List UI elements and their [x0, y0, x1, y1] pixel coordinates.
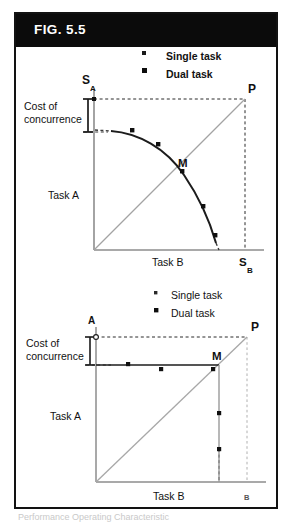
- label-single-task-a-subscript-top: A: [90, 84, 96, 93]
- x-axis-label-top: Task B: [152, 256, 184, 268]
- independence-diagonal-top: [94, 99, 245, 250]
- single-task-marker-a-bottom: [94, 335, 99, 340]
- cost-of-concurrence-line1-bottom: Cost of: [26, 337, 59, 349]
- label-single-task-b-bottom: B: [244, 493, 250, 502]
- label-single-task-b-subscript-top: B: [247, 266, 253, 275]
- poc-curve-top: [111, 131, 216, 243]
- data-point: [201, 204, 205, 208]
- legend-label-single-task: Single task: [171, 289, 223, 301]
- poc-curve-extension-right-top: [216, 243, 219, 250]
- data-point: [159, 367, 163, 371]
- cost-of-concurrence-line1-top: Cost of: [24, 100, 57, 112]
- legend-marker-single-task-icon: [142, 51, 146, 55]
- chart-top-panel: Single task Dual task: [16, 47, 276, 279]
- legend-marker-single-task-icon: [154, 291, 157, 294]
- cost-of-concurrence-line2-bottom: concurrence: [26, 350, 84, 362]
- label-perfect-point-top: P: [248, 82, 256, 96]
- data-point: [217, 411, 221, 415]
- cost-of-concurrence-bracket-top: [83, 99, 93, 132]
- legend-label-dual-task: Dual task: [166, 68, 213, 80]
- legend-label-single-task: Single task: [166, 50, 222, 62]
- y-axis-label-top: Task A: [48, 189, 79, 201]
- poc-curve-extension-left-top: [95, 130, 111, 131]
- figure-banner: FIG. 5.5: [16, 14, 276, 47]
- figure-frame: FIG. 5.5 Single task Dual task: [14, 12, 278, 509]
- y-axis-label-bottom: Task A: [50, 410, 81, 422]
- chart-bottom-svg: Single task Dual task: [16, 279, 276, 509]
- label-single-task-a-top: S: [82, 73, 90, 87]
- data-point: [156, 142, 160, 146]
- label-midpoint-bottom: M: [212, 350, 222, 362]
- figure-number-label: FIG. 5.5: [34, 22, 86, 37]
- figure-root: FIG. 5.5 Single task Dual task: [0, 0, 296, 524]
- caption-fragment: Performance Operating Characteristic: [18, 512, 280, 523]
- single-task-marker-a-top: [92, 97, 96, 101]
- cost-of-concurrence-bracket-bottom: [85, 337, 95, 365]
- legend-marker-dual-task-icon: [154, 308, 158, 312]
- chart-top-svg: Single task Dual task: [16, 47, 276, 279]
- data-markers-top: [130, 128, 217, 237]
- label-perfect-point-bottom: P: [251, 320, 259, 334]
- cost-of-concurrence-line2-top: concurrence: [24, 113, 82, 125]
- legend-label-dual-task: Dual task: [171, 307, 216, 319]
- data-point: [126, 362, 130, 366]
- data-point: [217, 447, 221, 451]
- data-point: [180, 169, 184, 173]
- chart-bottom-panel: Single task Dual task: [16, 279, 276, 509]
- legend-bottom: Single task Dual task: [154, 289, 223, 319]
- label-single-task-b-text-top: S: [239, 256, 247, 268]
- legend-top: Single task Dual task: [142, 50, 222, 80]
- data-point: [213, 233, 217, 237]
- independence-diagonal-bottom: [96, 337, 247, 482]
- data-point: [130, 128, 134, 132]
- legend-marker-dual-task-icon: [142, 68, 147, 73]
- data-point: [211, 367, 215, 371]
- label-single-task-a-bottom: A: [88, 315, 95, 326]
- x-axis-label-bottom: Task B: [153, 490, 185, 502]
- label-midpoint-top: M: [178, 157, 188, 169]
